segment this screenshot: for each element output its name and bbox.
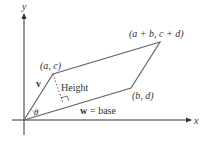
theta-label: θ [34,107,39,117]
base-label: = base [90,105,116,116]
parallelogram-diagram: y x (a, c) (a + b, c + d) (b, d) v Heigh… [0,0,202,142]
height-label: Height [61,82,88,93]
right-angle-marker [61,96,69,101]
vertex-label-sum: (a + b, c + d) [129,28,184,40]
v-label: v [36,78,41,89]
vertex-label-a-c: (a, c) [40,60,62,72]
vertex-label-b-d: (b, d) [132,90,154,102]
x-axis-label: x [193,115,199,126]
w-label: w [80,105,88,116]
y-axis-label: y [21,1,27,12]
